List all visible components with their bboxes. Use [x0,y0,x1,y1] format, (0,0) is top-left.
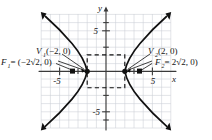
x-axis-label: x [171,74,176,84]
y-tick-label-neg5: -5 [93,107,101,117]
vertex-left-label: V 1 (−2, 0) [36,46,71,58]
y-tick-label-5: 5 [94,26,99,36]
v2-symbol: V [148,46,155,56]
focus-right-label: F 2 = 2√2, 0) [154,57,198,69]
y-axis-label: y [97,3,102,13]
x-tick-label-neg5: -5 [53,76,61,86]
v1-symbol: V [36,46,43,56]
focus-right-marker [137,69,142,74]
f2-equation: = 2√2, 0) [165,57,198,67]
left-branch-lower [46,71,88,126]
vertex-right-label: V 2 (2, 0) [148,46,178,58]
y-axis-arrow [104,7,109,12]
annotation-leader-lines [56,54,152,70]
f2-symbol: F [154,57,161,67]
v1-coords: (−2, 0) [46,46,71,56]
f1-symbol: F [0,57,7,67]
focus-left-label: F 1 = (−2√2, 0) [0,57,52,69]
v2-coords: (2, 0) [158,46,178,56]
f1-equation: = (−2√2, 0) [11,57,52,67]
right-branch-lower [125,71,167,126]
hyperbola-figure: -5 5 5 -5 x y V 1 (−2, 0) F 1 = (−2√2, 0… [0,0,212,140]
x-tick-label-5: 5 [151,76,156,86]
hyperbola-graph-svg: -5 5 5 -5 x y V 1 (−2, 0) F 1 = (−2√2, 0… [0,0,212,140]
